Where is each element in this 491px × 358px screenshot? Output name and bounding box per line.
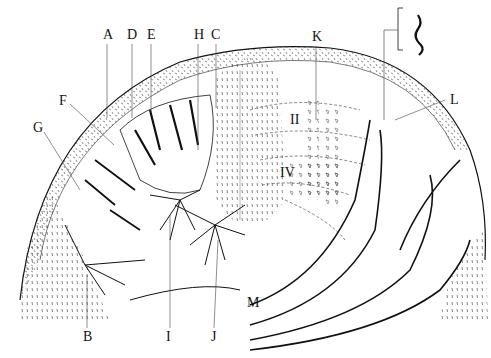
label-C: C [211,28,220,42]
label-J: J [211,330,216,344]
label-F: F [59,94,67,108]
label-K: K [312,30,322,44]
label-II: II [290,113,299,127]
label-B: B [83,330,92,344]
illustration [0,0,491,358]
label-D: D [127,28,137,42]
label-H: H [194,28,204,42]
label-M: M [247,296,259,310]
label-A: A [103,28,113,42]
label-E: E [147,28,156,42]
label-G: G [33,121,43,135]
label-I: I [166,330,171,344]
label-IV: IV [280,166,295,180]
label-L: L [450,93,459,107]
